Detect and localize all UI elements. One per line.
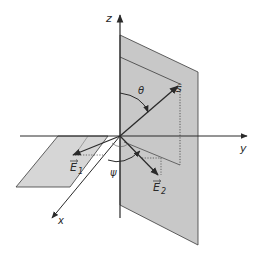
y-axis-label: y [239,142,247,155]
x-axis-label: x [57,215,64,226]
psi-label: ψ [110,167,117,178]
z-axis-label: z [105,12,112,25]
svg-text:E: E [153,181,160,194]
s-hat-label: ŝ [176,82,182,95]
theta-label: θ [138,85,144,96]
svg-text:E: E [70,161,77,174]
polarization-geometry-figure: z y x ŝ θ ψ E 1 E 2 [0,0,258,256]
horizontal-plane [16,136,108,187]
svg-text:2: 2 [161,187,166,196]
svg-text:1: 1 [78,167,83,176]
vertical-plane [120,35,198,245]
